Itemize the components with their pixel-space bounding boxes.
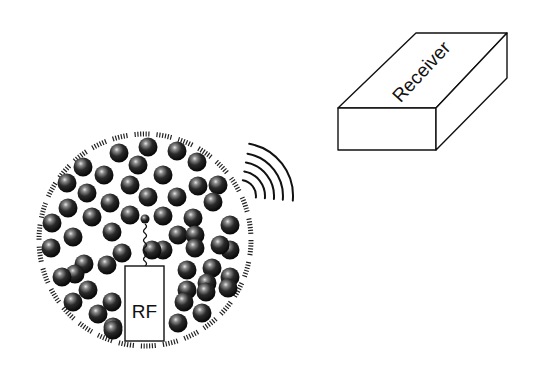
- particle-ball: [154, 166, 173, 185]
- rf-label: RF: [132, 301, 157, 322]
- particle-ball: [189, 177, 208, 196]
- particle-ball: [64, 228, 83, 247]
- particle-ball: [64, 293, 83, 312]
- particle-ball: [139, 188, 158, 207]
- antenna-tip-ball: [141, 215, 150, 224]
- particle-ball: [79, 281, 98, 300]
- particle-ball: [169, 314, 188, 333]
- particle-ball: [110, 144, 129, 163]
- particle-ball: [219, 279, 238, 298]
- particle-ball: [78, 184, 97, 203]
- signal-wave-arc: [243, 180, 256, 197]
- particle-ball: [168, 188, 187, 207]
- receiver-front-face: [338, 108, 436, 150]
- particle-ball: [121, 206, 140, 225]
- particle-ball: [184, 209, 203, 228]
- particle-ball: [42, 239, 61, 258]
- particle-ball: [178, 261, 197, 280]
- particle-ball: [211, 236, 230, 255]
- particle-ball: [204, 193, 223, 212]
- particle-ball: [43, 214, 62, 233]
- particle-ball: [154, 207, 173, 226]
- rf-tracking-diagram: RF Receiver: [0, 0, 534, 368]
- particle-ball: [101, 194, 120, 213]
- signal-wave-arc: [244, 171, 265, 198]
- particle-ball: [121, 176, 140, 195]
- particle-ball: [221, 216, 240, 235]
- particle-ball: [113, 244, 132, 263]
- receiver-box: [338, 33, 507, 150]
- particle-ball: [197, 283, 216, 302]
- particle-ball: [74, 158, 93, 177]
- particle-ball: [186, 239, 205, 258]
- particle-ball: [83, 208, 102, 227]
- particle-ball: [129, 156, 148, 175]
- particle-ball: [139, 138, 158, 157]
- particle-ball: [209, 176, 228, 195]
- particle-ball: [104, 321, 123, 340]
- particle-ball: [89, 305, 108, 324]
- particle-ball: [175, 293, 194, 312]
- particle-ball: [103, 223, 122, 242]
- particle-ball: [95, 166, 114, 185]
- particle-ball: [58, 174, 77, 193]
- particle-ball: [169, 226, 188, 245]
- particle-ball: [168, 142, 187, 161]
- rf-transmitter: RF: [125, 266, 164, 341]
- particle-ball: [188, 153, 207, 172]
- signal-waves-icon: [243, 144, 293, 201]
- particle-ball: [98, 256, 117, 275]
- particle-ball: [193, 304, 212, 323]
- particle-ball: [53, 268, 72, 287]
- particle-ball: [59, 199, 78, 218]
